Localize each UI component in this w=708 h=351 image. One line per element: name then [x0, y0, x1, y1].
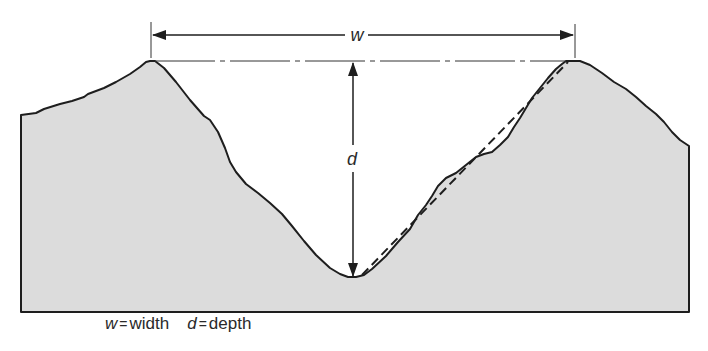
legend-width-meaning: width: [129, 314, 169, 333]
legend-caption: w=widthd=depth: [105, 314, 251, 334]
legend-width-symbol: w: [105, 314, 117, 333]
depth-label: d: [347, 149, 358, 169]
legend-width-equals: =: [117, 316, 129, 332]
valley-cross-section-diagram: w d: [0, 0, 708, 351]
ground-profile: [21, 61, 689, 312]
legend-depth-symbol: d: [187, 314, 196, 333]
legend-depth-equals: =: [197, 316, 209, 332]
legend-depth-meaning: depth: [209, 314, 252, 333]
width-label: w: [351, 25, 365, 45]
